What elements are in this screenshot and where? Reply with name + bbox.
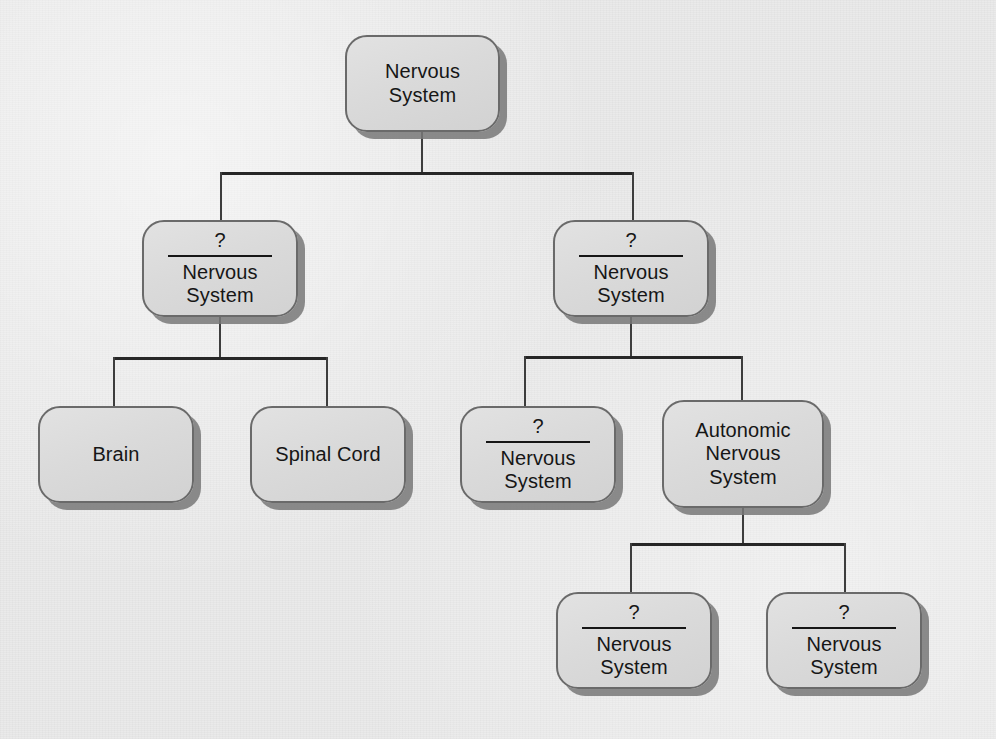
node-label: Brain [84, 443, 147, 466]
node-blank-marker: ? [625, 230, 636, 253]
connector-root-bar [220, 172, 634, 175]
node-blank-rule [168, 255, 272, 257]
node-brain[interactable]: Brain [38, 406, 194, 503]
node-l4-left[interactable]: ?Nervous System [556, 592, 712, 689]
connector-l2r-drop-left [524, 356, 526, 408]
connector-l2r-stem [630, 317, 632, 357]
node-l3-blank[interactable]: ?Nervous System [460, 406, 616, 503]
node-blank-marker: ? [532, 416, 543, 439]
node-label: Nervous System [377, 60, 468, 107]
connector-l2r-drop-right [741, 356, 743, 402]
node-blank-rule [792, 627, 896, 629]
node-label: Autonomic Nervous System [687, 419, 798, 489]
connector-auto-drop-right [844, 543, 846, 594]
node-label: Nervous System [593, 261, 668, 308]
node-l2-left[interactable]: ?Nervous System [142, 220, 298, 317]
connector-l2l-drop-left [113, 357, 115, 408]
node-l2-right[interactable]: ?Nervous System [553, 220, 709, 317]
node-blank-rule [579, 255, 683, 257]
connector-l2l-stem [219, 317, 221, 358]
connector-auto-stem [742, 508, 744, 544]
node-autonomic[interactable]: Autonomic Nervous System [662, 400, 824, 508]
node-blank-marker: ? [214, 230, 225, 253]
connector-l2r-bar [524, 356, 743, 359]
connector-auto-bar [630, 543, 846, 546]
node-blank-rule [486, 441, 590, 443]
node-l4-right[interactable]: ?Nervous System [766, 592, 922, 689]
node-blank-rule [582, 627, 686, 629]
connector-auto-drop-left [630, 543, 632, 594]
node-label: Nervous System [500, 447, 575, 494]
node-label: Nervous System [596, 633, 671, 680]
connector-l2l-drop-right [326, 357, 328, 408]
connector-root-drop-left [220, 172, 222, 222]
connector-root-drop-right [632, 172, 634, 222]
connector-root-stem [421, 132, 423, 174]
node-blank-marker: ? [628, 602, 639, 625]
node-label: Nervous System [182, 261, 257, 308]
node-blank-marker: ? [838, 602, 849, 625]
connector-l2l-bar [113, 357, 328, 360]
diagram-canvas: Nervous System?Nervous System?Nervous Sy… [0, 0, 996, 739]
node-root[interactable]: Nervous System [345, 35, 500, 132]
node-spinal-cord[interactable]: Spinal Cord [250, 406, 406, 503]
node-label: Nervous System [806, 633, 881, 680]
node-label: Spinal Cord [267, 443, 389, 466]
